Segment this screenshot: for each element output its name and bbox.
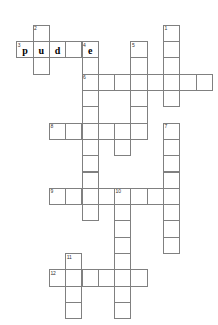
crossword-cell[interactable] xyxy=(147,188,164,205)
crossword-cell[interactable] xyxy=(163,90,180,107)
crossword-cell[interactable] xyxy=(114,269,131,286)
crossword-cell[interactable] xyxy=(65,41,82,58)
crossword-cell[interactable] xyxy=(49,188,66,205)
crossword-cell[interactable] xyxy=(163,172,180,189)
crossword-cell[interactable] xyxy=(114,302,131,319)
crossword-cell[interactable] xyxy=(82,57,99,74)
crossword-cell[interactable] xyxy=(82,74,99,91)
crossword-cell[interactable] xyxy=(98,269,115,286)
crossword-cell[interactable] xyxy=(82,204,99,221)
crossword-cell[interactable] xyxy=(163,237,180,254)
crossword-cell[interactable] xyxy=(163,220,180,237)
crossword-cell[interactable] xyxy=(130,90,147,107)
crossword-cell[interactable] xyxy=(65,286,82,303)
crossword-cell[interactable] xyxy=(147,74,164,91)
crossword-cell[interactable] xyxy=(65,253,82,270)
crossword-cell[interactable] xyxy=(82,106,99,123)
crossword-cell[interactable] xyxy=(163,123,180,140)
crossword-cell[interactable] xyxy=(130,188,147,205)
crossword-cell[interactable] xyxy=(114,286,131,303)
crossword-cell[interactable] xyxy=(130,74,147,91)
crossword-cell[interactable] xyxy=(114,237,131,254)
crossword-cell[interactable] xyxy=(163,188,180,205)
crossword-cell[interactable] xyxy=(49,41,66,58)
crossword-cell[interactable] xyxy=(33,25,50,42)
crossword-cell[interactable] xyxy=(65,269,82,286)
crossword-puzzle: 213pud4e56879101112 xyxy=(0,0,218,325)
crossword-cell[interactable] xyxy=(82,41,99,58)
crossword-cell[interactable] xyxy=(82,90,99,107)
crossword-cell[interactable] xyxy=(130,41,147,58)
crossword-cell[interactable] xyxy=(49,269,66,286)
crossword-cell[interactable] xyxy=(82,269,99,286)
crossword-cell[interactable] xyxy=(163,41,180,58)
crossword-cell[interactable] xyxy=(98,123,115,140)
crossword-cell[interactable] xyxy=(130,269,147,286)
crossword-cell[interactable] xyxy=(33,41,50,58)
crossword-cell[interactable] xyxy=(114,123,131,140)
crossword-cell[interactable] xyxy=(114,220,131,237)
crossword-cell[interactable] xyxy=(82,139,99,156)
crossword-cell[interactable] xyxy=(196,74,213,91)
crossword-cell[interactable] xyxy=(65,123,82,140)
crossword-cell[interactable] xyxy=(65,302,82,319)
crossword-cell[interactable] xyxy=(163,57,180,74)
crossword-cell[interactable] xyxy=(114,188,131,205)
crossword-cell[interactable] xyxy=(98,74,115,91)
crossword-cell[interactable] xyxy=(49,123,66,140)
crossword-cell[interactable] xyxy=(82,172,99,189)
crossword-cell[interactable] xyxy=(65,188,82,205)
crossword-cell[interactable] xyxy=(130,57,147,74)
crossword-cell[interactable] xyxy=(16,41,33,58)
crossword-cell[interactable] xyxy=(179,74,196,91)
crossword-cell[interactable] xyxy=(114,253,131,270)
crossword-cell[interactable] xyxy=(163,74,180,91)
crossword-cell[interactable] xyxy=(163,155,180,172)
crossword-cell[interactable] xyxy=(98,188,115,205)
crossword-cell[interactable] xyxy=(114,204,131,221)
crossword-grid[interactable]: 213pud4e56879101112 xyxy=(0,0,218,325)
crossword-cell[interactable] xyxy=(82,188,99,205)
crossword-cell[interactable] xyxy=(33,57,50,74)
crossword-cell[interactable] xyxy=(114,74,131,91)
crossword-cell[interactable] xyxy=(163,25,180,42)
crossword-cell[interactable] xyxy=(114,139,131,156)
crossword-cell[interactable] xyxy=(82,123,99,140)
crossword-cell[interactable] xyxy=(130,106,147,123)
crossword-cell[interactable] xyxy=(163,204,180,221)
crossword-cell[interactable] xyxy=(130,123,147,140)
crossword-cell[interactable] xyxy=(163,139,180,156)
crossword-cell[interactable] xyxy=(82,155,99,172)
